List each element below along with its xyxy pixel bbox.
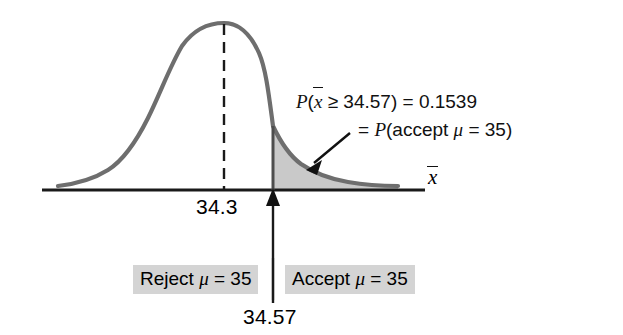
annotation-line-1: P(x ≥ 34.57) = 0.1539 (296, 88, 512, 116)
reject-region-text: Reject (140, 268, 199, 289)
accept-region-value: = 35 (365, 268, 408, 289)
annotation-line-2: = P(accept μ = 35) (296, 116, 512, 144)
mu-symbol: μ (454, 119, 464, 140)
probability-symbol: P (296, 91, 308, 112)
critical-value-label: 34.57 (243, 306, 297, 327)
accept-region-text: Accept (292, 268, 355, 289)
annotation-line-2-open: (accept (386, 119, 454, 140)
statistics-figure: P(x ≥ 34.57) = 0.1539 = P(accept μ = 35)… (0, 0, 623, 335)
probability-symbol-2: P (374, 119, 386, 140)
annotation-line-2-tail: = 35) (463, 119, 512, 140)
reject-region-value: = 35 (209, 268, 252, 289)
tail-probability-annotation: P(x ≥ 34.57) = 0.1539 = P(accept μ = 35) (296, 88, 512, 143)
xbar-symbol: x (314, 88, 322, 116)
x-axis-label: x (428, 166, 437, 188)
reject-mu-symbol: μ (199, 268, 209, 289)
reject-region-box: Reject μ = 35 (133, 265, 258, 294)
x-axis-xbar-symbol: x (428, 167, 437, 188)
accept-mu-symbol: μ (355, 268, 365, 289)
mean-value-label: 34.3 (196, 196, 238, 217)
accept-region-box: Accept μ = 35 (285, 265, 415, 294)
annotation-line-1-relation: ≥ 34.57) = 0.1539 (322, 91, 477, 112)
annotation-line-2-prefix: = (358, 119, 374, 140)
